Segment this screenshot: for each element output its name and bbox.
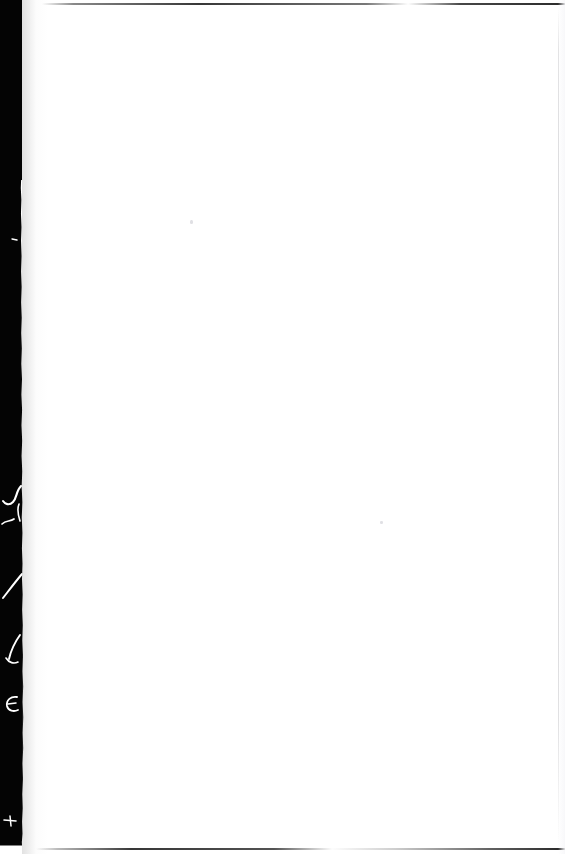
bleed-mark-5 bbox=[0, 692, 26, 726]
bleed-mark-4 bbox=[0, 632, 26, 676]
page-text-body bbox=[60, 40, 530, 810]
scanned-page bbox=[0, 0, 565, 854]
page-edge-right-falloff bbox=[558, 0, 565, 854]
page-edge-top bbox=[42, 3, 565, 5]
bleed-mark-3 bbox=[0, 572, 26, 606]
page-edge-right bbox=[558, 8, 559, 846]
binding-gutter bbox=[0, 0, 40, 854]
bleed-mark-6 bbox=[0, 812, 24, 834]
page-edge-bottom bbox=[36, 848, 565, 850]
bleed-mark-2 bbox=[0, 513, 24, 533]
gutter-shadow-upper bbox=[0, 0, 22, 180]
bleed-mark-7 bbox=[0, 236, 20, 246]
